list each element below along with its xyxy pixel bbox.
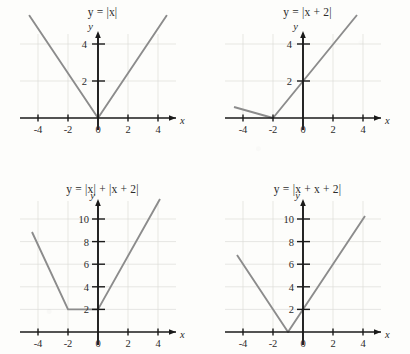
y-axis-label: y (87, 21, 93, 32)
y-tick-labels: 10 8 6 4 2 (284, 214, 295, 315)
x-tick-label: 4 (360, 124, 366, 135)
y-axis (297, 31, 310, 130)
y-tick-labels: 4 2 (287, 39, 293, 87)
x-axis-label: x (179, 115, 185, 126)
x-tick-label: 2 (330, 124, 335, 135)
y-tick-label: 2 (82, 76, 87, 87)
x-tick-label: 0 (300, 124, 305, 135)
x-tick-label: 0 (95, 338, 100, 349)
y-tick-label: 6 (289, 259, 294, 270)
plot-abs-2x-plus-2: -4 -2 0 2 4 10 8 6 4 2 x y (205, 177, 410, 354)
x-axis-label: x (179, 329, 185, 340)
y-tick-labels: 4 2 (82, 39, 88, 87)
y-tick-label: 10 (79, 214, 90, 225)
y-tick-label: 8 (289, 237, 294, 248)
x-tick-label: -2 (64, 124, 73, 135)
curve (32, 199, 160, 309)
x-tick-label: 4 (155, 338, 161, 349)
x-tick-labels: -4 -2 0 2 4 (239, 338, 367, 349)
x-tick-label: 4 (360, 338, 366, 349)
y-tick-label: 4 (84, 282, 90, 293)
x-tick-label: 0 (95, 124, 100, 135)
plot-sum-abs: -4 -2 0 2 4 10 8 6 4 2 x y (0, 177, 205, 354)
x-tick-label: 4 (155, 124, 161, 135)
plot-abs-x-plus-2: -4 -2 0 2 4 4 2 x y (205, 0, 410, 177)
x-tick-labels: -4 -2 0 2 4 (239, 124, 367, 135)
x-tick-label: -4 (34, 124, 43, 135)
plot-abs-x: -4 -2 0 2 4 4 2 x y (0, 0, 205, 177)
y-axis-label: y (292, 21, 298, 32)
panel-abs-x-plus-2: y = |x + 2| (205, 0, 410, 177)
x-tick-label: -4 (239, 338, 248, 349)
x-axis-label: x (384, 115, 390, 126)
y-tick-label: 10 (284, 214, 295, 225)
x-tick-label: -4 (34, 338, 43, 349)
x-tick-label: -4 (239, 124, 248, 135)
y-tick-label: 6 (84, 259, 89, 270)
y-axis (92, 31, 105, 130)
y-axis-label: y (89, 190, 95, 201)
y-tick-label: 8 (84, 237, 89, 248)
x-tick-label: -2 (64, 338, 73, 349)
x-tick-label: -2 (269, 124, 278, 135)
y-tick-label: 4 (289, 282, 295, 293)
y-axis (297, 199, 310, 345)
curve (237, 216, 365, 332)
figure-grid: y = |x| (0, 0, 410, 354)
x-tick-label: 2 (125, 338, 130, 349)
y-tick-label: 4 (82, 39, 88, 50)
y-axis (92, 199, 105, 345)
x-tick-label: 2 (125, 124, 130, 135)
y-axis-label: y (294, 190, 300, 201)
x-tick-labels: -4 -2 0 2 4 (34, 124, 162, 135)
x-tick-label: 0 (300, 338, 305, 349)
y-tick-label: 4 (287, 39, 293, 50)
x-axis-label: x (384, 329, 390, 340)
x-tick-label: -2 (269, 338, 278, 349)
x-tick-label: 2 (330, 338, 335, 349)
y-tick-label: 2 (84, 304, 89, 315)
panel-abs-x-plus-x-plus-2: y = |x + x + 2| (205, 177, 410, 354)
panel-abs-x-plus-abs-x-plus-2: y = |x| + |x + 2| (0, 177, 205, 354)
panel-abs-x: y = |x| (0, 0, 205, 177)
x-tick-labels: -4 -2 0 2 4 (34, 338, 162, 349)
y-tick-labels: 10 8 6 4 2 (79, 214, 90, 315)
y-tick-label: 2 (289, 304, 294, 315)
y-tick-label: 2 (287, 76, 292, 87)
